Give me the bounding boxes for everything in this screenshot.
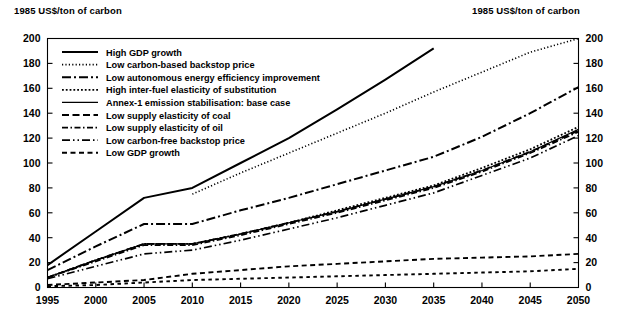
x-tick-label: 2030 xyxy=(374,294,398,306)
y-tick-label-right: 160 xyxy=(586,82,604,94)
y-tick-label-right: 80 xyxy=(586,182,598,194)
axis-ticks xyxy=(48,63,579,287)
legend-label: Annex-1 emission stabilisation: base cas… xyxy=(106,98,290,108)
series-line xyxy=(48,269,579,286)
legend-label: Low GDP growth xyxy=(106,148,180,158)
y-tick-label: 40 xyxy=(29,232,41,244)
legend-label: Low supply elasticity of oil xyxy=(106,123,223,133)
y-tick-label: 100 xyxy=(23,157,41,169)
carbon-price-chart: 1985 US$/ton of carbon 1985 US$/ton of c… xyxy=(0,0,635,324)
legend-label: High inter-fuel elasticity of substituti… xyxy=(106,85,277,95)
x-axis-labels: 1995200020052010201520202025203020352040… xyxy=(36,294,591,306)
x-tick-label: 2035 xyxy=(422,294,446,306)
y-tick-label-right: 0 xyxy=(586,281,592,293)
y-tick-label-right: 40 xyxy=(586,232,598,244)
legend-label: Low supply elasticity of coal xyxy=(106,111,231,121)
y-tick-label: 180 xyxy=(23,57,41,69)
y-tick-label-right: 120 xyxy=(586,132,604,144)
x-tick-label: 2010 xyxy=(181,294,205,306)
x-tick-label: 2025 xyxy=(325,294,349,306)
y-tick-label-right: 180 xyxy=(586,57,604,69)
y-tick-label-right: 200 xyxy=(586,32,604,44)
y-tick-label-right: 20 xyxy=(586,256,598,268)
legend-label: Low autonomous energy efficiency improve… xyxy=(106,73,320,83)
y-axis-labels-right: 020406080100120140160180200 xyxy=(586,32,604,293)
y-tick-label: 0 xyxy=(35,281,41,293)
x-tick-label: 2005 xyxy=(132,294,156,306)
x-tick-label: 2000 xyxy=(84,294,108,306)
y-tick-label: 80 xyxy=(29,182,41,194)
x-tick-label: 2015 xyxy=(229,294,253,306)
y-tick-label: 200 xyxy=(23,32,41,44)
x-tick-label: 2045 xyxy=(519,294,543,306)
y-axis-labels-left: 020406080100120140160180200 xyxy=(23,32,41,293)
y-tick-label: 20 xyxy=(29,256,41,268)
legend-label: High GDP growth xyxy=(106,48,182,58)
y-tick-label-right: 60 xyxy=(586,207,598,219)
y-tick-label-right: 100 xyxy=(586,157,604,169)
y-tick-label: 140 xyxy=(23,107,41,119)
legend-label: Low carbon-free backstop price xyxy=(106,136,245,146)
y-tick-label: 120 xyxy=(23,132,41,144)
x-tick-label: 2040 xyxy=(470,294,494,306)
x-tick-label: 2020 xyxy=(277,294,301,306)
y-tick-label: 160 xyxy=(23,82,41,94)
y-tick-label-right: 140 xyxy=(586,107,604,119)
plot-area: 020406080100120140160180200 020406080100… xyxy=(0,0,635,324)
x-tick-label: 2050 xyxy=(567,294,591,306)
y-tick-label: 60 xyxy=(29,207,41,219)
x-tick-label: 1995 xyxy=(36,294,60,306)
legend-label: Low carbon-based backstop price xyxy=(106,60,255,70)
